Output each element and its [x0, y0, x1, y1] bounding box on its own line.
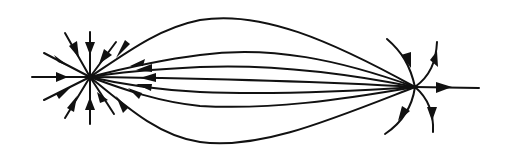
arrow-icon — [427, 107, 437, 121]
arrow-icon — [436, 82, 452, 93]
arrow-icon — [128, 88, 142, 99]
diverge-downleft — [385, 87, 415, 134]
arrow-icon — [130, 59, 145, 66]
arrow-icon — [430, 51, 438, 67]
arrow-icon — [56, 72, 68, 82]
arrow-icon — [116, 96, 128, 113]
arrow-icon — [67, 96, 77, 112]
arrow-icon — [85, 97, 95, 110]
diverge-upright — [415, 42, 437, 87]
arrow-icon — [136, 84, 152, 91]
connecting-field-lines — [90, 18, 415, 143]
right-source-point — [413, 85, 417, 89]
arrow-icon — [85, 42, 95, 55]
arrow-icon — [140, 73, 156, 82]
field-line-diagram — [0, 0, 505, 154]
left-sink-point — [88, 75, 93, 80]
